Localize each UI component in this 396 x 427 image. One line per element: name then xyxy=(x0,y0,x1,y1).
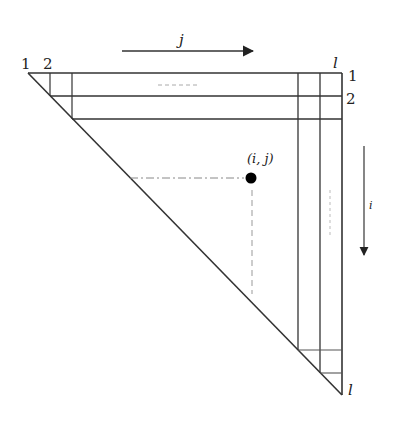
top-label-first: 1 xyxy=(21,55,31,73)
right-column-lines xyxy=(298,73,320,373)
right-label-second: 2 xyxy=(346,90,356,108)
triangle-outline xyxy=(28,73,342,395)
right-label-last: l xyxy=(348,381,353,399)
right-label-first: 1 xyxy=(348,67,358,85)
diagonal-edge xyxy=(28,73,342,395)
j-axis-label: j xyxy=(176,31,184,49)
top-label-second: 2 xyxy=(43,55,53,73)
point-label: (i, j) xyxy=(247,151,274,166)
point-marker xyxy=(246,173,257,184)
top-label-last: l xyxy=(333,54,338,72)
i-axis-label: i xyxy=(369,199,373,212)
triangular-matrix-diagram: j i 1 2 l 1 2 l (i, j) xyxy=(0,0,396,427)
